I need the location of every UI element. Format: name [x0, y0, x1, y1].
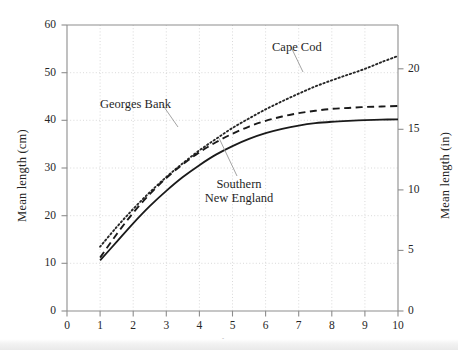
x-axis-tick-label: 3 [155, 319, 177, 331]
secondary-y-axis-title: Mean length (in) [438, 117, 453, 235]
series-label-southern-new-england: Southern New England [196, 177, 282, 205]
chart-plot-area [0, 0, 458, 350]
series-label-georges-bank: Georges Bank [100, 97, 171, 111]
secondary-y-axis-tick-label: 5 [408, 243, 430, 255]
x-axis-ticks [67, 311, 398, 317]
x-axis-tick-label: 9 [354, 319, 376, 331]
left-axis-ticks [62, 25, 68, 311]
x-axis-tick-label: 7 [288, 319, 310, 331]
series-label-cape-cod: Cape Cod [272, 40, 322, 54]
y-axis-tick-label: 0 [34, 304, 56, 316]
leader-line-southern-new-england [219, 138, 237, 176]
y-axis-tick-label: 10 [34, 256, 56, 268]
y-axis-tick-label: 20 [34, 209, 56, 221]
page-bottom-strip [0, 339, 458, 350]
series-label-southern-line1: Southern [196, 177, 282, 191]
x-axis-tick-label: 8 [321, 319, 343, 331]
secondary-y-axis-tick-label: 0 [408, 304, 430, 316]
chart-figure: 60 50 40 30 20 10 0 20 15 10 5 0 0 1 2 3… [0, 0, 458, 350]
y-axis-tick-label: 60 [34, 18, 56, 30]
data-curves [100, 56, 398, 260]
x-axis-tick-label: 4 [188, 319, 210, 331]
x-axis-tick-label: 5 [222, 319, 244, 331]
x-axis-tick-label: 0 [56, 319, 78, 331]
series-label-southern-line2: New England [196, 191, 282, 205]
plot-frame [67, 25, 398, 311]
grid-vertical [100, 25, 365, 311]
x-axis-tick-label: 6 [255, 319, 277, 331]
secondary-y-axis-tick-label: 15 [408, 122, 430, 134]
secondary-y-axis-tick-label: 10 [408, 183, 430, 195]
right-axis-ticks [398, 69, 404, 311]
y-axis-title: Mean length (cm) [15, 116, 30, 236]
series-curve-cape-cod [100, 56, 398, 247]
y-axis-tick-label: 40 [34, 113, 56, 125]
x-axis-tick-label: 2 [122, 319, 144, 331]
y-axis-tick-label: 50 [34, 66, 56, 78]
x-axis-tick-label: 1 [89, 319, 111, 331]
secondary-y-axis-tick-label: 20 [408, 62, 430, 74]
x-axis-tick-label: 10 [387, 319, 409, 331]
y-axis-tick-label: 30 [34, 161, 56, 173]
